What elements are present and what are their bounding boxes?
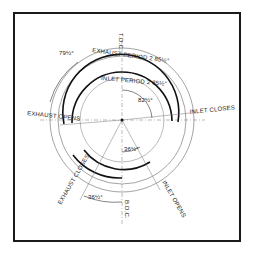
valve-timing-diagram: T.D.C. B.D.C. EXHAUST PERIOD 2 85½° INLE… xyxy=(0,0,254,255)
angle-36-inner-label: 36½° xyxy=(124,146,139,152)
inlet-closes-label: INLET CLOSES xyxy=(189,104,235,115)
exhaust-period-arc xyxy=(63,54,179,124)
inlet-opens-label: INLET OPENS xyxy=(161,180,187,219)
inlet-period-label: INLET PERIOD 2 85½° xyxy=(101,75,168,87)
exhaust-period-label: EXHAUST PERIOD 2 85½° xyxy=(92,47,170,64)
angle-36-outer-label: 36½° xyxy=(88,194,103,200)
angle-82-label: 82½° xyxy=(138,97,153,103)
angle-79-label: 79½° xyxy=(59,50,74,56)
tdc-label: T.D.C. xyxy=(118,33,124,51)
inlet-closes-angle-arc xyxy=(122,90,152,118)
exhaust-closes-label: EXHAUST CLOSES xyxy=(57,153,91,205)
center-point xyxy=(121,119,124,122)
bdc-label: B.D.C. xyxy=(124,200,130,219)
